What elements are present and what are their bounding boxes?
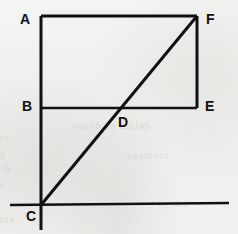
vertex-label-a: A — [20, 12, 30, 26]
segment-CF — [41, 16, 197, 205]
vertex-label-f: F — [206, 12, 215, 26]
geometry-figure: ehT .noitcerid etisoppogniwollof eht ni … — [0, 0, 238, 234]
vertex-label-b: B — [22, 99, 32, 113]
vertex-label-d: D — [118, 115, 128, 129]
vertex-label-e: E — [205, 99, 214, 113]
vertex-label-c: C — [26, 209, 36, 223]
